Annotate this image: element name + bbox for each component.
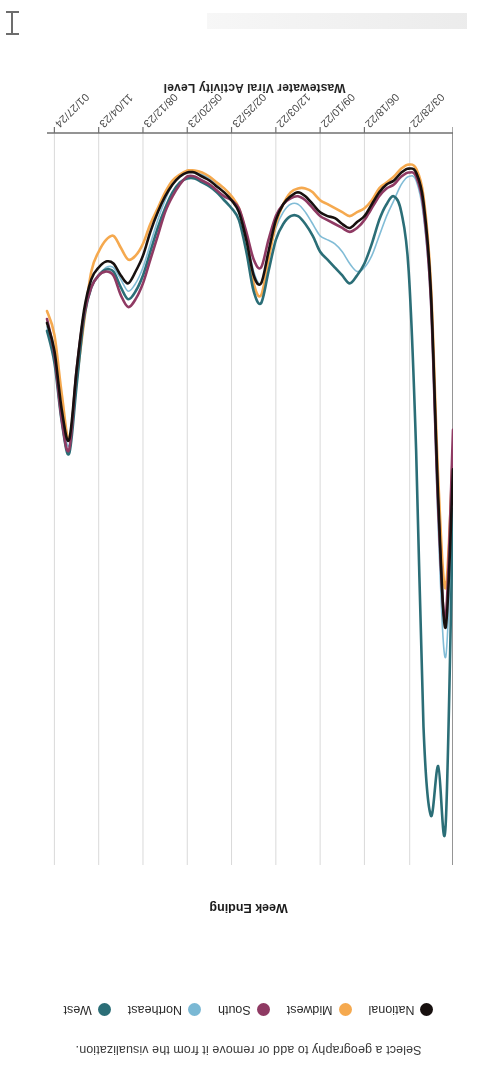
x-tick-label: 05/20/23 bbox=[186, 91, 225, 130]
x-tick-label: 03/28/22 bbox=[408, 91, 447, 130]
series-line-west[interactable] bbox=[47, 178, 453, 836]
chart-page: Select a geography to add or remove it f… bbox=[0, 0, 497, 1075]
x-tick-label: 12/03/22 bbox=[274, 91, 313, 130]
line-chart-plot[interactable]: 01/01/2203/28/2206/18/2209/10/2212/03/22… bbox=[33, 37, 453, 875]
legend-label-west: West bbox=[64, 1003, 92, 1017]
legend-label-south: South bbox=[218, 1003, 251, 1017]
legend-label-northeast: Northeast bbox=[128, 1003, 182, 1017]
legend-item-list: National Midwest South Northeast West bbox=[0, 1003, 497, 1017]
x-tick-label: 09/10/22 bbox=[319, 91, 358, 130]
legend-item-northeast[interactable]: Northeast bbox=[128, 1003, 201, 1017]
x-tick-label: 01/01/22 bbox=[452, 91, 453, 130]
rotated-page-content: Select a geography to add or remove it f… bbox=[0, 0, 497, 1075]
legend-label-national: National bbox=[369, 1003, 415, 1017]
x-tick-label: 01/27/24 bbox=[53, 91, 92, 130]
legend-swatch-south bbox=[257, 1004, 270, 1017]
chart-legend: Select a geography to add or remove it f… bbox=[0, 929, 497, 1057]
selection-highlight-band bbox=[207, 13, 467, 29]
legend-item-national[interactable]: National bbox=[369, 1003, 434, 1017]
legend-item-south[interactable]: South bbox=[218, 1003, 270, 1017]
legend-item-west[interactable]: West bbox=[64, 1003, 111, 1017]
chart-canvas[interactable]: 01/01/2203/28/2206/18/2209/10/2212/03/22… bbox=[33, 37, 453, 875]
legend-label-midwest: Midwest bbox=[287, 1003, 333, 1017]
x-axis-title: Week Ending bbox=[0, 901, 497, 915]
series-line-midwest[interactable] bbox=[47, 165, 453, 589]
legend-swatch-west bbox=[98, 1004, 111, 1017]
legend-swatch-midwest bbox=[339, 1004, 352, 1017]
x-tick-label: 08/12/23 bbox=[142, 91, 181, 130]
legend-hint-text: Select a geography to add or remove it f… bbox=[0, 1043, 497, 1057]
legend-swatch-national bbox=[420, 1004, 433, 1017]
y-axis-title: Wastewater Viral Activity Level bbox=[6, 81, 497, 95]
x-tick-label: 06/18/22 bbox=[363, 91, 402, 130]
legend-swatch-northeast bbox=[188, 1004, 201, 1017]
legend-item-midwest[interactable]: Midwest bbox=[287, 1003, 352, 1017]
x-tick-label: 02/25/23 bbox=[230, 91, 269, 130]
x-tick-label: 11/04/23 bbox=[97, 92, 135, 130]
